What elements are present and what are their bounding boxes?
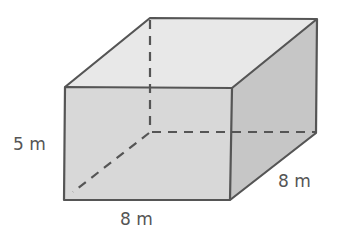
length-label: 8 m [120,209,153,229]
width-label: 8 m [278,171,311,191]
front-face [64,87,232,200]
prism-diagram: 5 m 8 m 8 m [0,0,338,240]
prism-svg: 5 m 8 m 8 m [0,0,338,240]
height-label: 5 m [13,134,46,154]
